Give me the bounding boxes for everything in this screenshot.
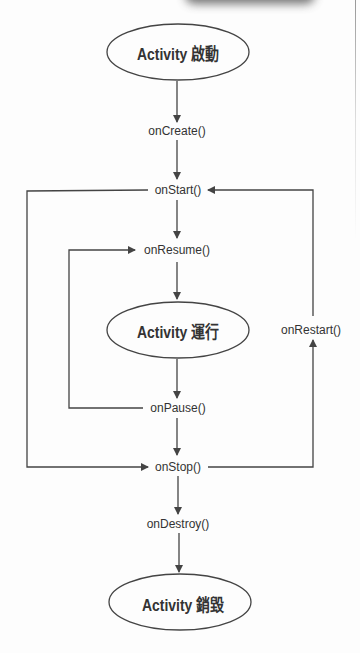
callback-on-restart: onRestart() bbox=[279, 323, 343, 337]
callback-on-create: onCreate() bbox=[146, 124, 207, 138]
state-launch: Activity 啟動 bbox=[137, 40, 219, 65]
state-destroyed: Activity 銷毀 bbox=[142, 591, 224, 616]
callback-on-start: onStart() bbox=[153, 183, 204, 197]
callback-on-destroy: onDestroy() bbox=[145, 517, 212, 531]
callback-on-pause: onPause() bbox=[148, 401, 207, 415]
callback-on-resume: onResume() bbox=[142, 243, 212, 257]
callback-on-stop: onStop() bbox=[153, 460, 203, 474]
state-running: Activity 運行 bbox=[137, 318, 219, 343]
